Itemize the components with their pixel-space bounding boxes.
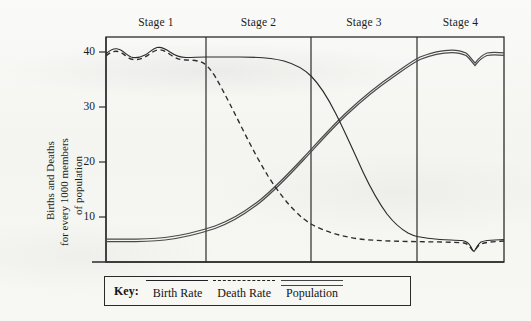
- y-tick-label-30: 30: [68, 100, 95, 112]
- legend-item-death-rate-label: Death Rate: [217, 286, 271, 300]
- y-axis-title-line3: of population: [72, 156, 84, 215]
- legend-item-birth-rate: Birth Rate: [153, 281, 203, 301]
- stage-label-1: Stage 1: [106, 16, 206, 28]
- stage-label-4: Stage 4: [417, 16, 504, 28]
- series-death-rate: [106, 50, 504, 251]
- population-line-swatch: [281, 280, 343, 286]
- y-axis-title-line1: Births and Deaths: [44, 141, 56, 220]
- death-rate-line-swatch: [213, 280, 275, 285]
- y-tick-label-40: 40: [68, 45, 95, 57]
- legend: Key: Birth Rate Death Rate Population: [104, 276, 411, 306]
- series-population: [106, 50, 504, 242]
- legend-item-population-label: Population: [286, 286, 338, 300]
- stage-label-3: Stage 3: [311, 16, 417, 28]
- stage-label-2: Stage 2: [206, 16, 311, 28]
- birth-rate-line-swatch: [146, 280, 208, 285]
- legend-item-population: Population: [286, 281, 338, 301]
- legend-key-label: Key:: [114, 284, 139, 299]
- legend-item-birth-rate-label: Birth Rate: [153, 286, 203, 300]
- legend-item-death-rate: Death Rate: [217, 281, 271, 301]
- y-axis-title-line2: for every 1000 members: [58, 138, 70, 246]
- demographic-transition-chart: Stage 1 Stage 2 Stage 3 Stage 4 40 30 20…: [0, 0, 531, 321]
- series-birth-rate: [106, 47, 504, 251]
